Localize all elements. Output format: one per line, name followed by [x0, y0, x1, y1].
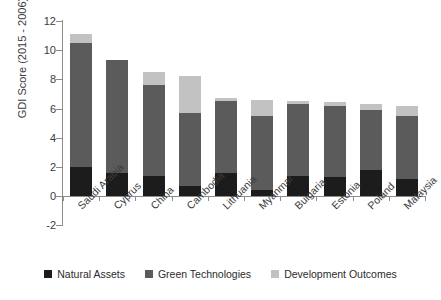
y-axis-tick-label: 6: [10, 104, 56, 115]
y-axis-labels: -2024681012: [0, 0, 56, 300]
x-axis-tick: [389, 196, 390, 201]
bar-segment-green-technologies[interactable]: [143, 85, 165, 175]
chart-container: GDI Score (2015 - 2006) -2024681012 Saud…: [0, 0, 441, 300]
bar-segment-green-technologies[interactable]: [324, 106, 346, 177]
bar-stack[interactable]: [70, 34, 92, 196]
bar-segment-green-technologies[interactable]: [215, 101, 237, 172]
bar-segment-green-technologies[interactable]: [287, 104, 309, 175]
legend-item[interactable]: Natural Assets: [44, 268, 125, 280]
y-axis-tick-label: 0: [10, 191, 56, 202]
bar-segment-green-technologies[interactable]: [179, 113, 201, 186]
bar-segment-green-technologies[interactable]: [396, 116, 418, 179]
y-axis-tick-label: 2: [10, 162, 56, 173]
legend-swatch-icon: [271, 270, 279, 278]
legend-swatch-icon: [145, 270, 153, 278]
x-axis-tick: [208, 196, 209, 201]
legend-item[interactable]: Development Outcomes: [271, 268, 397, 280]
legend-label: Natural Assets: [57, 268, 125, 280]
bar-segment-green-technologies[interactable]: [106, 60, 128, 172]
x-axis-tick: [135, 196, 136, 201]
y-axis-tick-label: 10: [10, 45, 56, 56]
x-axis-tick: [63, 196, 64, 201]
chart-legend: Natural AssetsGreen TechnologiesDevelopm…: [0, 268, 441, 280]
bar-stack[interactable]: [360, 104, 382, 196]
x-axis-tick: [316, 196, 317, 201]
legend-label: Development Outcomes: [284, 268, 397, 280]
legend-swatch-icon: [44, 270, 52, 278]
y-axis-tick-label: 12: [10, 16, 56, 27]
bar-segment-development-outcomes[interactable]: [143, 72, 165, 85]
bar-segment-development-outcomes[interactable]: [251, 100, 273, 116]
bar-segment-development-outcomes[interactable]: [70, 34, 92, 43]
x-axis-tick: [425, 196, 426, 201]
x-axis-tick: [172, 196, 173, 201]
bar-stack[interactable]: [396, 106, 418, 196]
bar-stack[interactable]: [179, 76, 201, 196]
y-axis-tick-label: -2: [10, 220, 56, 231]
y-axis-tick-label: 8: [10, 74, 56, 85]
bar-segment-development-outcomes[interactable]: [179, 76, 201, 112]
x-axis-tick: [244, 196, 245, 201]
legend-item[interactable]: Green Technologies: [145, 268, 251, 280]
bar-stack[interactable]: [143, 72, 165, 196]
y-axis-tick-label: 4: [10, 133, 56, 144]
legend-label: Green Technologies: [158, 268, 251, 280]
x-axis-tick: [280, 196, 281, 201]
x-axis-tick: [99, 196, 100, 201]
x-axis-tick: [353, 196, 354, 201]
bar-segment-development-outcomes[interactable]: [396, 106, 418, 116]
bar-segment-green-technologies[interactable]: [70, 43, 92, 167]
bar-segment-green-technologies[interactable]: [360, 110, 382, 170]
